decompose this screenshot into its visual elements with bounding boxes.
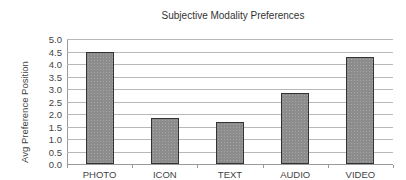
x-tick-label: ICON [131, 169, 199, 180]
x-tick-label: PHOTO [66, 169, 134, 180]
y-tick-label: 2.5 [36, 96, 62, 107]
gridline [67, 52, 393, 53]
bar-icon [151, 118, 179, 164]
y-tick-label: 5.0 [36, 34, 62, 45]
y-tick-label: 4.0 [36, 59, 62, 70]
x-tick-mark [263, 165, 264, 168]
bar-photo [86, 52, 114, 165]
x-tick-label: VIDEO [326, 169, 394, 180]
gridline [67, 39, 393, 40]
bar-audio [281, 93, 309, 164]
y-tick-label: 2.0 [36, 109, 62, 120]
plot-area [67, 39, 393, 164]
x-tick-mark [197, 165, 198, 168]
gridline [67, 114, 393, 115]
x-axis-line [67, 164, 393, 165]
gridline [67, 77, 393, 78]
y-tick-label: 3.0 [36, 84, 62, 95]
y-tick-label: 0.5 [36, 146, 62, 157]
x-tick-mark [132, 165, 133, 168]
y-tick-label: 0.0 [36, 159, 62, 170]
gridline [67, 64, 393, 65]
y-axis-label: Avg Preference Position [19, 61, 30, 163]
x-tick-label: AUDIO [261, 169, 329, 180]
y-tick-label: 3.5 [36, 71, 62, 82]
chart-title: Subjective Modality Preferences [0, 10, 406, 21]
y-tick-label: 1.0 [36, 134, 62, 145]
y-tick-label: 1.5 [36, 121, 62, 132]
bar-text [216, 122, 244, 164]
x-tick-mark [67, 165, 68, 168]
gridline [67, 89, 393, 90]
x-tick-mark [393, 165, 394, 168]
x-tick-mark [328, 165, 329, 168]
y-tick-label: 4.5 [36, 46, 62, 57]
x-tick-label: TEXT [196, 169, 264, 180]
gridline [67, 102, 393, 103]
bar-video [346, 57, 374, 165]
